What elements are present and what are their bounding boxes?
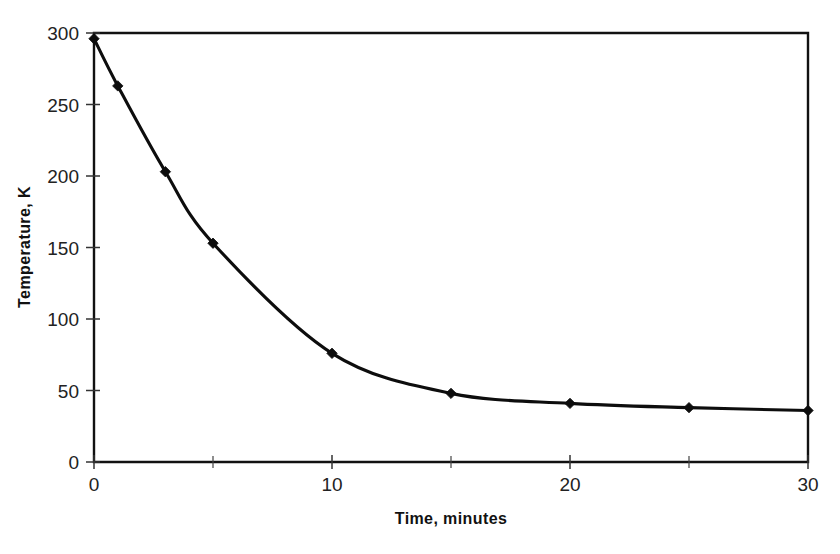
y-tick-label-200: 200 (47, 166, 79, 187)
data-point-marker (89, 34, 99, 44)
data-point-marker (565, 398, 575, 408)
x-tick-label-30: 30 (797, 474, 818, 495)
y-axis-tick-labels: 0 50 100 150 200 250 300 (47, 23, 79, 473)
data-series-temperature (89, 34, 813, 416)
x-axis-tick-labels: 0 10 20 30 (89, 474, 819, 495)
x-tick-label-20: 20 (559, 474, 580, 495)
y-tick-label-150: 150 (47, 238, 79, 259)
data-point-marker (446, 388, 456, 398)
data-point-marker (684, 402, 694, 412)
chart-figure: 0 50 100 150 200 250 300 0 10 20 30 (0, 0, 840, 554)
y-tick-label-250: 250 (47, 95, 79, 116)
y-tick-label-300: 300 (47, 23, 79, 44)
line-chart: 0 50 100 150 200 250 300 0 10 20 30 (0, 0, 840, 554)
x-tick-label-10: 10 (321, 474, 342, 495)
y-tick-label-100: 100 (47, 309, 79, 330)
series-line (94, 39, 808, 411)
y-axis-title: Temperature, K (16, 186, 33, 308)
y-tick-label-50: 50 (58, 381, 79, 402)
data-point-marker (803, 405, 813, 415)
x-axis-title: Time, minutes (395, 510, 508, 527)
x-tick-label-0: 0 (89, 474, 100, 495)
y-tick-label-0: 0 (68, 452, 79, 473)
